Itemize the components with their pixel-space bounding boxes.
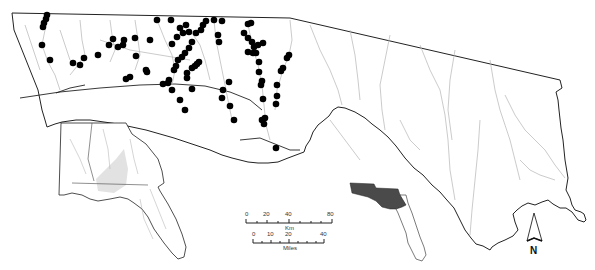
sampling-site-marker [274,93,281,100]
sampling-site-marker [133,53,140,60]
sampling-site-marker [273,101,280,108]
sampling-site-marker [110,36,117,43]
sampling-site-marker [250,50,257,57]
sampling-site-marker [40,24,47,31]
sampling-site-marker [177,97,184,104]
sampling-site-marker [274,82,281,89]
sampling-site-marker [219,18,226,25]
sampling-site-marker [70,60,77,67]
sampling-site-marker [189,65,196,72]
sampling-site-marker [258,82,265,89]
sampling-site-marker [95,52,102,59]
scale-mi-tick-40: 40 [320,231,327,237]
sampling-site-marker [132,35,139,42]
sampling-site-marker [154,17,161,24]
scale-mi-tick-20: 20 [285,231,292,237]
sampling-site-marker [180,30,187,37]
sampling-site-marker [211,17,218,24]
sampling-site-marker [226,79,233,86]
sampling-site-marker [189,86,196,93]
sampling-site-marker [260,96,267,103]
north-label: N [530,245,537,256]
sampling-site-marker [81,55,88,62]
sampling-site-marker [175,57,182,64]
sampling-site-marker [256,59,263,66]
sampling-site-marker [169,87,176,94]
sampling-site-marker [123,76,130,83]
scale-km-tick-40: 40 [285,211,292,217]
sampling-site-marker [260,40,267,47]
sampling-site-marker [171,67,178,74]
sampling-site-marker [227,103,234,110]
scale-mi-tick-10: 10 [267,231,274,237]
sampling-site-marker [183,22,190,29]
sampling-site-marker [261,121,268,128]
sampling-site-marker [169,41,176,48]
sampling-site-marker [216,39,223,46]
sampling-site-marker [189,39,196,46]
scale-km-tick-80: 80 [327,211,334,217]
sampling-site-marker [160,81,167,88]
sampling-site-marker [39,42,46,49]
sampling-site-marker [256,69,263,76]
sampling-site-marker [215,32,222,39]
sampling-site-marker [106,42,113,49]
sampling-site-marker [203,18,210,25]
sampling-site-marker [147,37,154,44]
scale-km-tick-20: 20 [263,211,270,217]
sampling-site-marker [284,55,291,62]
sampling-site-marker [77,62,84,69]
sampling-site-marker [220,87,227,94]
sampling-site-marker [231,117,238,124]
sampling-site-marker [219,95,226,102]
sampling-site-marker [278,68,285,75]
map-canvas: 0 20 40 80 Km 0 10 20 40 Miles N [0,0,595,270]
sampling-site-marker [182,107,189,114]
sampling-site-marker [248,20,255,27]
sampling-site-marker [121,37,128,44]
sampling-site-marker [174,34,181,41]
sampling-site-marker [186,29,193,36]
sampling-site-marker [168,17,175,24]
sampling-site-marker [166,77,173,84]
sampling-site-marker [47,57,54,64]
sampling-site-marker [184,75,191,82]
scale-mi-unit: Miles [283,245,297,251]
sampling-site-marker [143,67,150,74]
sampling-site-marker [273,145,280,152]
